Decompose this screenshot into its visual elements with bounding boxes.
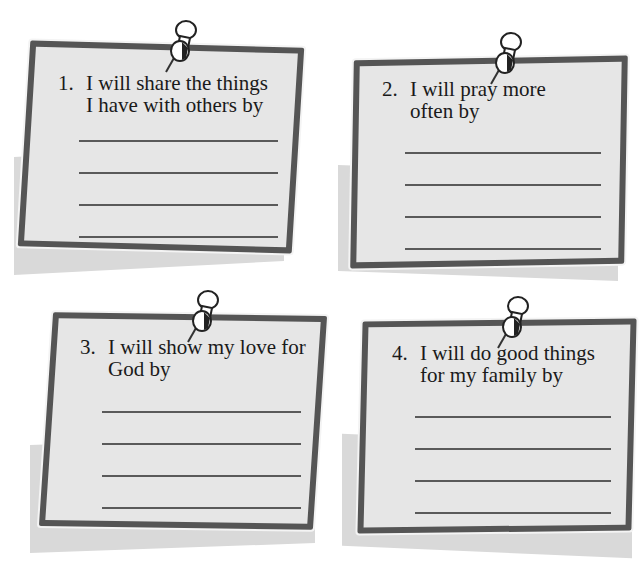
prompt-number: 2.	[382, 78, 410, 100]
answer-line[interactable]	[415, 448, 611, 450]
prompt-line-2: God by	[80, 358, 306, 380]
answer-line[interactable]	[405, 216, 601, 218]
answer-line[interactable]	[415, 416, 611, 418]
note-4: 4.I will do good things for my family by	[320, 280, 642, 563]
answer-line[interactable]	[415, 480, 611, 482]
prompt-number: 3.	[80, 336, 108, 358]
prompt-text: 1.I will share the things I have with ot…	[58, 72, 268, 116]
note-3: 3.I will show my love for God by	[0, 280, 320, 563]
answer-line[interactable]	[102, 475, 301, 477]
answer-line[interactable]	[79, 236, 278, 238]
pushpin-icon	[485, 30, 529, 86]
prompt-line-2: for my family by	[392, 364, 595, 386]
note-1: 1.I will share the things I have with ot…	[0, 0, 320, 280]
answer-line[interactable]	[79, 204, 278, 206]
prompt-line-2: often by	[382, 100, 546, 122]
answer-line[interactable]	[102, 507, 301, 509]
pushpin-icon	[492, 294, 536, 350]
answer-line[interactable]	[415, 512, 611, 514]
prompt-line-1: I will share the things	[86, 71, 268, 95]
pushpin-icon	[182, 288, 226, 344]
note-2: 2.I will pray more often by	[320, 0, 642, 280]
prompt-line-2: I have with others by	[58, 94, 268, 116]
answer-line[interactable]	[405, 184, 601, 186]
answer-line[interactable]	[405, 152, 601, 154]
answer-line[interactable]	[79, 140, 278, 142]
pushpin-icon	[160, 18, 204, 74]
answer-line[interactable]	[102, 411, 301, 413]
prompt-number: 4.	[392, 342, 420, 364]
prompt-number: 1.	[58, 72, 86, 94]
answer-line[interactable]	[79, 172, 278, 174]
answer-line[interactable]	[102, 443, 301, 445]
answer-line[interactable]	[405, 248, 601, 250]
